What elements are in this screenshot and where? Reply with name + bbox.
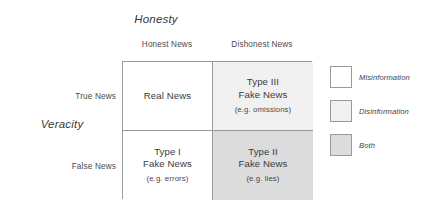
- cell-line-1: Type I: [154, 146, 181, 158]
- x-axis-title: Honesty: [0, 13, 312, 25]
- cell-line-1: Type II: [248, 146, 278, 158]
- y-axis-title: Veracity: [16, 118, 108, 130]
- row-header-true-news: True News: [44, 92, 116, 101]
- legend-item-misinformation: Misinformation: [330, 60, 429, 94]
- matrix-cell-type-3-fake-news: Type III Fake News (e.g. omissions): [213, 62, 313, 131]
- column-header-dishonest-news: Dishonest News: [212, 40, 312, 49]
- cell-example: (e.g. errors): [146, 173, 188, 185]
- cell-example: (e.g. lies): [246, 173, 279, 185]
- quadrant-matrix: Real News Type III Fake News (e.g. omiss…: [122, 61, 312, 199]
- cell-line-1: Type III: [247, 76, 279, 88]
- legend-swatch-misinformation: [330, 66, 352, 88]
- cell-line-1: Real News: [144, 90, 191, 102]
- row-header-false-news: False News: [44, 162, 116, 171]
- matrix-cell-type-1-fake-news: Type I Fake News (e.g. errors): [123, 131, 213, 200]
- legend-label-misinformation: Misinformation: [359, 73, 410, 82]
- legend-label-disinformation: Disinformation: [359, 107, 409, 116]
- legend-swatch-disinformation: [330, 100, 352, 122]
- legend: Misinformation Disinformation Both: [330, 60, 429, 162]
- legend-item-both: Both: [330, 128, 429, 162]
- matrix-cell-real-news: Real News: [123, 62, 213, 131]
- legend-swatch-both: [330, 134, 352, 156]
- cell-example: (e.g. omissions): [235, 104, 292, 116]
- diagram-canvas: Honesty Veracity Honest News Dishonest N…: [0, 0, 429, 210]
- legend-label-both: Both: [359, 141, 375, 150]
- cell-line-2: Fake News: [239, 158, 288, 170]
- cell-line-2: Fake News: [143, 158, 192, 170]
- matrix-cell-type-2-fake-news: Type II Fake News (e.g. lies): [213, 131, 313, 200]
- cell-line-2: Fake News: [239, 89, 288, 101]
- column-header-honest-news: Honest News: [122, 40, 212, 49]
- legend-item-disinformation: Disinformation: [330, 94, 429, 128]
